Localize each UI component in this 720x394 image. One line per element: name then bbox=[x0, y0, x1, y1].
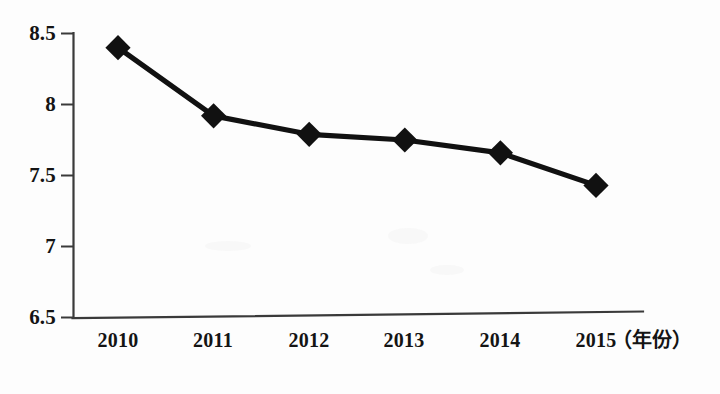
y-axis-ticks bbox=[62, 34, 73, 318]
y-axis-tick-label-7: 7 bbox=[0, 236, 56, 257]
y-axis-tick-label-8.5: 8.5 bbox=[0, 23, 56, 44]
x-axis-tick-label-2014: 2014 bbox=[450, 330, 550, 350]
x-axis-caption: （年份） bbox=[612, 330, 692, 350]
y-axis-tick-label-8: 8 bbox=[0, 94, 56, 115]
x-axis-tick-label-2010: 2010 bbox=[68, 330, 168, 350]
x-axis-tick-label-2011: 2011 bbox=[163, 330, 263, 350]
x-axis-tick-label-2013: 2013 bbox=[354, 330, 454, 350]
x-axis-tick-label-2012: 2012 bbox=[259, 330, 359, 350]
data-line-series-1 bbox=[118, 48, 596, 186]
y-axis-tick-label-7.5: 7.5 bbox=[0, 165, 56, 186]
data-point-2013 bbox=[392, 127, 417, 152]
data-point-2012 bbox=[297, 122, 322, 147]
x-axis-line bbox=[73, 312, 644, 319]
data-point-2015 bbox=[583, 173, 608, 198]
line-chart-figure: 8.5 8 7.5 7 6.5 2010 2011 2012 2013 2014… bbox=[0, 0, 720, 394]
data-point-2014 bbox=[488, 140, 513, 165]
data-markers bbox=[105, 35, 608, 198]
y-axis-tick-label-6.5: 6.5 bbox=[0, 307, 56, 328]
